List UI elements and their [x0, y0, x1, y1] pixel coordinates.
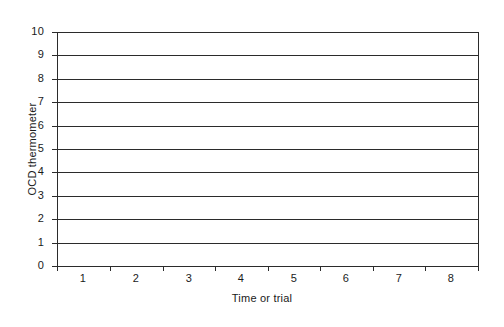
y-tick-label-5: 5 — [14, 143, 44, 154]
x-tick-mark-2 — [163, 266, 164, 271]
x-tick-label-5: 5 — [274, 272, 314, 284]
x-tick-label-2: 2 — [116, 272, 156, 284]
x-tick-mark-1 — [110, 266, 111, 271]
y-tick-label-9: 9 — [14, 49, 44, 60]
y-tick-label-8: 8 — [14, 73, 44, 84]
x-tick-mark-0 — [57, 266, 58, 271]
y-tick-label-4: 4 — [14, 166, 44, 177]
gridline-9 — [57, 55, 478, 56]
x-tick-mark-8 — [478, 266, 479, 271]
x-tick-mark-4 — [268, 266, 269, 271]
y-tick-label-6: 6 — [14, 120, 44, 131]
gridline-1 — [57, 243, 478, 244]
y-axis-line — [57, 32, 58, 266]
y-tick-label-10: 10 — [14, 26, 44, 37]
x-tick-mark-6 — [373, 266, 374, 271]
x-tick-label-7: 7 — [379, 272, 419, 284]
x-tick-label-8: 8 — [431, 272, 471, 284]
x-tick-label-1: 1 — [63, 272, 103, 284]
gridline-10 — [57, 32, 478, 33]
gridline-4 — [57, 172, 478, 173]
gridline-7 — [57, 102, 478, 103]
y-tick-label-2: 2 — [14, 213, 44, 224]
gridline-6 — [57, 126, 478, 127]
y-tick-label-7: 7 — [14, 96, 44, 107]
x-tick-label-3: 3 — [169, 272, 209, 284]
gridline-5 — [57, 149, 478, 150]
y-tick-label-0: 0 — [14, 260, 44, 271]
y-tick-label-3: 3 — [14, 190, 44, 201]
x-tick-mark-3 — [215, 266, 216, 271]
chart-figure: OCD thermometer 10 9 8 7 6 5 4 3 2 1 0 — [0, 0, 504, 327]
x-axis-title: Time or trial — [0, 292, 504, 304]
gridline-3 — [57, 196, 478, 197]
gridline-8 — [57, 79, 478, 80]
plot-right-edge — [478, 32, 479, 266]
y-tick-label-1: 1 — [14, 237, 44, 248]
x-tick-label-4: 4 — [221, 272, 261, 284]
plot-area — [57, 32, 478, 266]
x-tick-mark-5 — [320, 266, 321, 271]
gridline-2 — [57, 219, 478, 220]
x-tick-label-6: 6 — [326, 272, 366, 284]
x-tick-mark-7 — [425, 266, 426, 271]
